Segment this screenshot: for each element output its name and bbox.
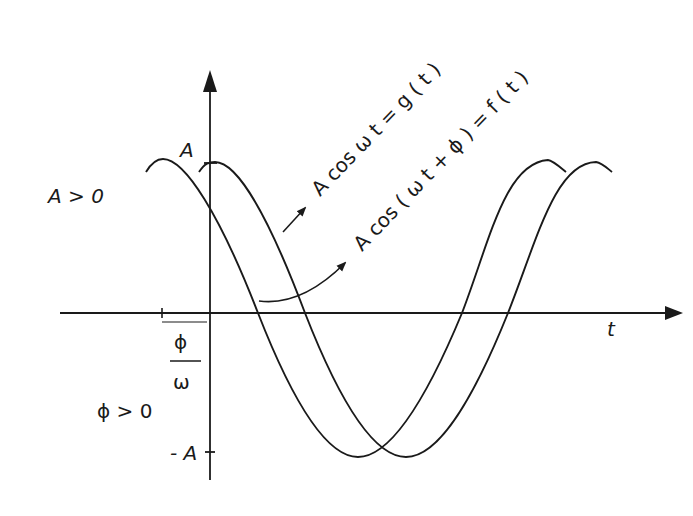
t-axis-label: t: [607, 317, 616, 341]
shift-denominator: ω: [173, 370, 190, 394]
t-axis-arrow-icon: [665, 306, 683, 320]
pointer-f-arrow-icon: [259, 263, 345, 302]
amplitude-condition: A > 0: [46, 184, 104, 208]
y-axis-arrow-icon: [203, 70, 217, 92]
shift-numerator: ϕ: [174, 330, 187, 354]
curve-f: [146, 159, 566, 457]
negative-amplitude-label: - A: [170, 441, 197, 465]
curve-f-label: A cos ( ω t + ϕ ) = f ( t ): [348, 65, 533, 255]
phase-shift-diagram: A A > 0 - A ϕ > 0 ϕ ω t A cos ω t = g ( …: [0, 0, 693, 516]
phase-condition: ϕ > 0: [97, 399, 152, 423]
y-axis: [162, 70, 217, 480]
t-axis: [60, 306, 683, 320]
pointer-g-arrow-icon: [283, 208, 305, 232]
amplitude-label: A: [178, 138, 194, 162]
